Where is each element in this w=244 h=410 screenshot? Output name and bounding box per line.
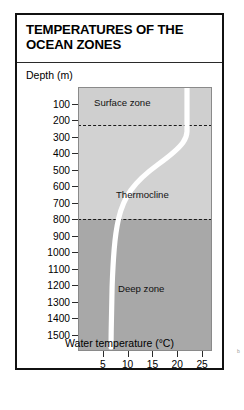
y-tick-label: 1200 — [47, 280, 70, 291]
y-tick-label: 600 — [53, 181, 70, 192]
y-tick-mark — [72, 236, 78, 237]
y-tick-label: 300 — [53, 131, 70, 142]
y-tick-label: 1000 — [47, 247, 70, 258]
zone-label-surface: Surface zone — [94, 97, 151, 108]
y-tick-label: 1100 — [48, 263, 70, 274]
zone-label-thermocline: Thermocline — [116, 189, 169, 200]
x-tick-mark — [177, 351, 178, 357]
y-tick-label: 700 — [53, 197, 70, 208]
x-tick-label: 15 — [147, 359, 158, 370]
x-tick-mark — [103, 351, 104, 357]
plot-area: Surface zone Thermocline Deep zone 10020… — [78, 87, 212, 351]
x-tick-label: 10 — [122, 359, 133, 370]
x-axis-title: Water temperature (°C) — [17, 337, 222, 349]
figure-page: TEMPERATURES OF THE OCEAN ZONES Depth (m… — [0, 0, 244, 410]
y-tick-label: 1300 — [47, 296, 70, 307]
zone-label-deep: Deep zone — [118, 283, 164, 294]
y-tick-mark — [72, 153, 78, 154]
x-tick-label: 5 — [100, 359, 106, 370]
y-tick-mark — [72, 318, 78, 319]
y-tick-mark — [72, 219, 78, 220]
y-tick-label: 500 — [53, 164, 70, 175]
y-tick-mark — [72, 120, 78, 121]
y-tick-mark — [72, 285, 78, 286]
y-tick-mark — [72, 170, 78, 171]
y-tick-label: 400 — [53, 148, 70, 159]
x-tick-label: 25 — [196, 359, 207, 370]
x-tick-label: 20 — [172, 359, 183, 370]
temperature-profile-curve — [78, 87, 212, 351]
page-edge-mark: b — [237, 348, 241, 354]
y-tick-label: 200 — [53, 115, 70, 126]
y-tick-mark — [72, 335, 78, 336]
y-tick-label: 900 — [53, 230, 70, 241]
y-tick-mark — [72, 203, 78, 204]
x-tick-mark — [152, 351, 153, 357]
x-tick-mark — [128, 351, 129, 357]
y-tick-mark — [72, 186, 78, 187]
x-tick-mark — [202, 351, 203, 357]
y-tick-mark — [72, 137, 78, 138]
y-tick-label: 100 — [53, 98, 70, 109]
y-tick-mark — [72, 269, 78, 270]
y-axis-title: Depth (m) — [26, 69, 73, 81]
figure-title: TEMPERATURES OF THE OCEAN ZONES — [26, 23, 213, 53]
y-tick-mark — [72, 104, 78, 105]
figure-frame: TEMPERATURES OF THE OCEAN ZONES Depth (m… — [15, 13, 224, 370]
y-tick-mark — [72, 302, 78, 303]
y-tick-label: 1400 — [47, 313, 70, 324]
title-block: TEMPERATURES OF THE OCEAN ZONES — [17, 15, 222, 59]
y-tick-mark — [72, 252, 78, 253]
title-divider — [17, 62, 222, 63]
y-tick-label: 800 — [53, 214, 70, 225]
